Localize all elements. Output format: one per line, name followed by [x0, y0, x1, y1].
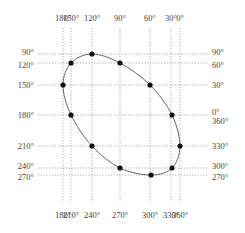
sample-point: [177, 143, 182, 148]
axis-label: 360°: [212, 116, 228, 126]
ellipse-curve: [63, 54, 180, 175]
sample-point: [117, 165, 122, 170]
ellipse-diagram: 180°150°120°90°60°30°0° 180°210°240°270°…: [0, 0, 245, 233]
axis-label: 30°: [165, 13, 177, 23]
axis-label: 300°: [142, 210, 158, 220]
sample-point: [147, 82, 152, 87]
axis-label: 90°: [212, 47, 224, 57]
axis-label: 300°: [212, 161, 228, 171]
axis-label: 270°: [212, 172, 228, 182]
sample-point: [148, 172, 153, 177]
sample-point: [68, 60, 73, 65]
axis-label: 240°: [18, 161, 34, 171]
axis-label: 270°: [18, 172, 34, 182]
top-axis-labels: 180°150°120°90°60°30°0°: [55, 13, 184, 23]
axis-label: 240°: [84, 210, 100, 220]
axis-label: 360°: [172, 210, 188, 220]
left-axis-labels: 90°120°150°180°210°240°270°: [18, 47, 34, 182]
sample-point: [117, 60, 122, 65]
axis-label: 60°: [144, 13, 156, 23]
axis-label: 0°: [176, 13, 184, 23]
axis-label: 210°: [63, 210, 79, 220]
axis-label: 120°: [84, 13, 100, 23]
axis-label: 90°: [22, 47, 34, 57]
sample-point: [169, 165, 174, 170]
sample-point: [68, 112, 73, 117]
axis-label: 60°: [212, 60, 224, 70]
right-axis-labels: 90°60°30°0°360°330°300°270°: [212, 47, 228, 182]
bottom-axis-labels: 180°210°240°270°300°330°360°: [55, 210, 188, 220]
sample-point: [60, 82, 65, 87]
axis-label: 270°: [112, 210, 128, 220]
horizontal-gridlines: [38, 54, 208, 175]
sample-points: [60, 51, 182, 177]
axis-label: 90°: [114, 13, 126, 23]
sample-point: [169, 112, 174, 117]
axis-label: 330°: [212, 141, 228, 151]
axis-label: 120°: [18, 60, 34, 70]
axis-label: 150°: [63, 13, 79, 23]
sample-point: [89, 143, 94, 148]
axis-label: 180°: [18, 110, 34, 120]
sample-point: [89, 51, 94, 56]
axis-label: 210°: [18, 141, 34, 151]
axis-label: 30°: [212, 80, 224, 90]
axis-label: 150°: [18, 80, 34, 90]
